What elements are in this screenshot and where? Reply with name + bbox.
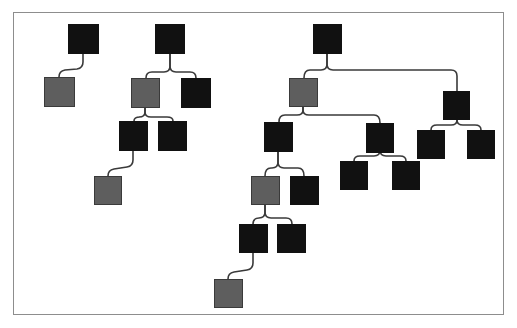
tree-node-n22[interactable] [467, 130, 495, 159]
tree-node-n9[interactable] [313, 24, 342, 54]
tree-node-n21[interactable] [417, 130, 445, 159]
tree-node-n19[interactable] [392, 161, 420, 190]
tree-node-n18[interactable] [340, 161, 368, 190]
tree-node-n4[interactable] [131, 78, 160, 108]
tree-node-n6[interactable] [119, 121, 148, 151]
tree-node-n13[interactable] [290, 176, 319, 205]
tree-node-n12[interactable] [251, 176, 280, 205]
tree-node-n16[interactable] [214, 279, 243, 308]
tree-node-n15[interactable] [277, 224, 306, 253]
tree-node-n20[interactable] [443, 91, 470, 120]
tree-node-n2[interactable] [44, 77, 75, 107]
tree-node-n14[interactable] [239, 224, 268, 253]
tree-node-n17[interactable] [366, 123, 394, 153]
tree-node-n5[interactable] [181, 78, 211, 108]
tree-node-n10[interactable] [289, 78, 318, 107]
tree-node-n8[interactable] [94, 176, 122, 205]
tree-node-n11[interactable] [264, 122, 293, 152]
tree-node-n1[interactable] [68, 24, 99, 54]
tree-node-n3[interactable] [155, 24, 185, 54]
diagram-canvas [0, 0, 517, 328]
diagram-frame-border [13, 12, 504, 315]
tree-node-n7[interactable] [158, 121, 187, 151]
